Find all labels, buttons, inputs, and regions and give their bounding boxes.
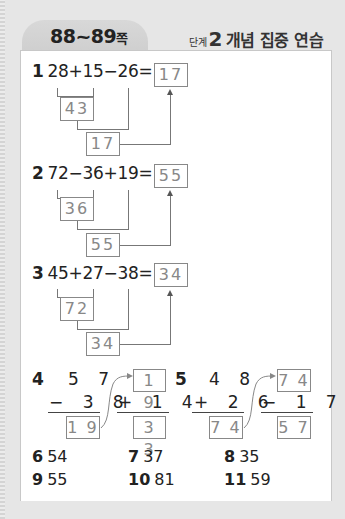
answer-box: 55: [154, 164, 188, 188]
expression: 72−36+19=: [48, 163, 153, 183]
arrow-line: [170, 195, 171, 246]
step-number: 2: [208, 27, 221, 51]
sum-rule: [48, 412, 100, 413]
arrow-line: [170, 295, 171, 345]
answer-9: 955: [32, 470, 68, 489]
first-result-box: 36: [60, 197, 94, 221]
first-result-box: 72: [60, 297, 94, 321]
sum-rule: [261, 412, 313, 413]
arrow-up-icon: [167, 290, 173, 296]
problem-number: 1: [32, 61, 44, 81]
sum-rule: [117, 412, 169, 413]
expression: 45+27−38=: [48, 263, 153, 283]
expression: 28+15−26=: [48, 61, 153, 81]
connector-line: [128, 289, 129, 330]
page-suffix: 쪽: [116, 31, 128, 46]
arrow-line: [120, 245, 171, 246]
problem-number: 3: [32, 263, 44, 283]
carry-box: 1 9: [133, 369, 166, 392]
addend-line: + 1 4: [118, 392, 200, 412]
arrow-line: [120, 144, 171, 145]
problem-number: 5: [175, 369, 187, 389]
answer-8: 835: [224, 447, 260, 466]
bracket-line: [93, 88, 94, 96]
connector-line: [128, 190, 129, 230]
page-range: 88~89: [50, 25, 116, 47]
answer-box: 34: [154, 263, 188, 287]
arrow-line: [120, 344, 171, 345]
problem-number: 2: [32, 163, 44, 183]
page-edge: [0, 0, 5, 519]
second-result-box: 55: [86, 233, 120, 257]
answer-box: 17: [154, 63, 188, 87]
problem-number: 4: [32, 369, 44, 389]
answer-6: 654: [32, 447, 68, 466]
bracket-line: [57, 289, 58, 297]
connector-line: [77, 229, 129, 230]
arrow-up-icon: [167, 190, 173, 196]
result-box: 1 9: [66, 416, 100, 439]
connector-line: [77, 129, 129, 130]
first-result-box: 43: [60, 97, 94, 121]
answer-10: 1081: [128, 470, 175, 489]
bracket-line: [93, 289, 94, 297]
sum-rule: [192, 412, 244, 413]
connector-line: [77, 329, 129, 330]
subtrahend-line: − 1 7: [262, 392, 344, 412]
second-result-box: 34: [86, 332, 120, 356]
connector-line: [128, 88, 129, 130]
section-title: 단계2개념 집중 연습: [189, 27, 323, 51]
final-box: 3 3: [133, 416, 166, 439]
carry-box: 7 4: [277, 369, 311, 392]
section-heading: 개념 집중 연습: [226, 31, 323, 50]
bracket-line: [57, 88, 58, 96]
result-box: 7 4: [209, 416, 243, 439]
final-box: 5 7: [277, 416, 311, 439]
bracket-line: [57, 190, 58, 198]
step-label: 단계: [189, 37, 206, 48]
second-result-box: 17: [86, 132, 120, 156]
page-range-label: 88~89쪽: [50, 25, 128, 47]
arrow-line: [170, 94, 171, 145]
arrow-up-icon: [167, 89, 173, 95]
answer-11: 1159: [224, 470, 271, 489]
answer-7: 737: [128, 447, 164, 466]
